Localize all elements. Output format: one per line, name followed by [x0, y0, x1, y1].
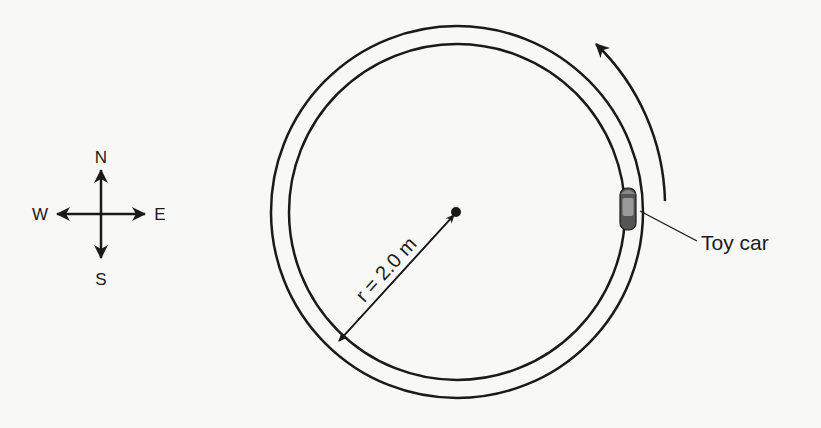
radius-label: r = 2.0 m	[351, 233, 421, 306]
compass-south-label: S	[95, 270, 106, 289]
radius-indicator: r = 2.0 m	[339, 215, 454, 341]
counterclockwise-direction-arrow-icon	[596, 44, 665, 201]
compass-rose: N S E W	[32, 148, 166, 289]
diagram-canvas: N S E W r = 2.0 m Toy car	[0, 0, 821, 428]
toy-car-icon	[620, 188, 636, 230]
compass-east-label: E	[154, 205, 165, 224]
compass-west-label: W	[32, 205, 48, 224]
toy-car-label: Toy car	[701, 231, 769, 254]
radius-arrow-to-track	[339, 215, 454, 341]
compass-north-label: N	[95, 148, 107, 167]
circular-track	[271, 26, 643, 398]
car-leader-line	[640, 211, 697, 241]
